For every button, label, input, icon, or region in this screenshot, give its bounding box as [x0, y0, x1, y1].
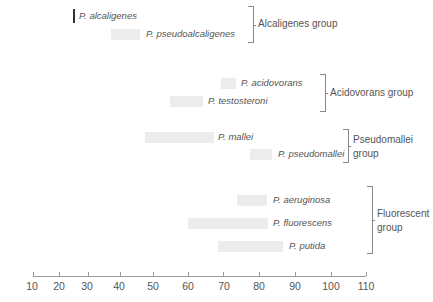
- x-tick-label: 110: [358, 280, 375, 292]
- bar-p-testosteroni: [170, 96, 203, 107]
- bracket-acidovorans: [320, 74, 326, 112]
- x-tick: [59, 272, 60, 276]
- label-p-putida: P. putida: [289, 240, 325, 252]
- bracket-pseudomallei: [343, 129, 349, 163]
- x-tick-label: 60: [182, 280, 194, 292]
- x-tick: [33, 272, 34, 276]
- group-label-pseudomallei-line2: group: [353, 147, 379, 160]
- x-tick: [366, 272, 367, 276]
- x-tick: [223, 272, 224, 276]
- label-p-aeruginosa: P. aeruginosa: [273, 194, 330, 206]
- x-tick: [331, 272, 332, 276]
- x-tick: [120, 272, 121, 276]
- label-p-pseudomallei: P. pseudomallei: [278, 148, 344, 160]
- x-axis-line: [33, 276, 366, 277]
- x-tick-label: 70: [218, 280, 230, 292]
- x-tick: [88, 272, 89, 276]
- bar-p-alcaligenes: [73, 9, 75, 23]
- x-tick-label: 20: [53, 280, 65, 292]
- group-label-pseudomallei-line1: Pseudomallei: [353, 133, 413, 146]
- group-label-alcaligenes: Alcaligenes group: [258, 17, 338, 30]
- bracket-fluorescent: [367, 186, 373, 254]
- label-p-acidovorans: P. acidovorans: [241, 77, 303, 89]
- label-p-fluorescens: P. fluorescens: [273, 217, 332, 229]
- bar-p-mallei: [145, 132, 214, 143]
- bar-p-fluorescens: [188, 218, 268, 229]
- group-label-acidovorans: Acidovorans group: [330, 86, 413, 99]
- x-tick-label: 100: [322, 280, 340, 292]
- label-p-pseudoalcaligenes: P. pseudoalcaligenes: [146, 28, 235, 40]
- bar-p-pseudomallei: [250, 149, 272, 160]
- x-tick: [153, 272, 154, 276]
- label-p-testosteroni: P. testosteroni: [208, 95, 268, 107]
- x-tick-label: 90: [289, 280, 301, 292]
- group-label-fluorescent-line2: group: [377, 221, 403, 234]
- bar-p-putida: [218, 241, 283, 252]
- bar-p-pseudoalcaligenes: [111, 29, 140, 40]
- x-tick-label: 50: [147, 280, 159, 292]
- range-chart: P. alcaligenes P. pseudoalcaligenes Alca…: [0, 0, 433, 302]
- group-label-fluorescent-line1: Fluorescent: [377, 207, 429, 220]
- bracket-alcaligenes: [248, 6, 254, 43]
- x-tick-label: 30: [81, 280, 93, 292]
- x-tick-label: 10: [26, 280, 38, 292]
- bar-p-aeruginosa: [237, 195, 267, 206]
- x-tick: [259, 272, 260, 276]
- x-tick-label: 40: [113, 280, 125, 292]
- label-p-mallei: P. mallei: [218, 131, 253, 143]
- x-tick-label: 80: [253, 280, 265, 292]
- x-tick: [188, 272, 189, 276]
- x-tick: [295, 272, 296, 276]
- label-p-alcaligenes: P. alcaligenes: [79, 10, 137, 22]
- bar-p-acidovorans: [221, 78, 236, 89]
